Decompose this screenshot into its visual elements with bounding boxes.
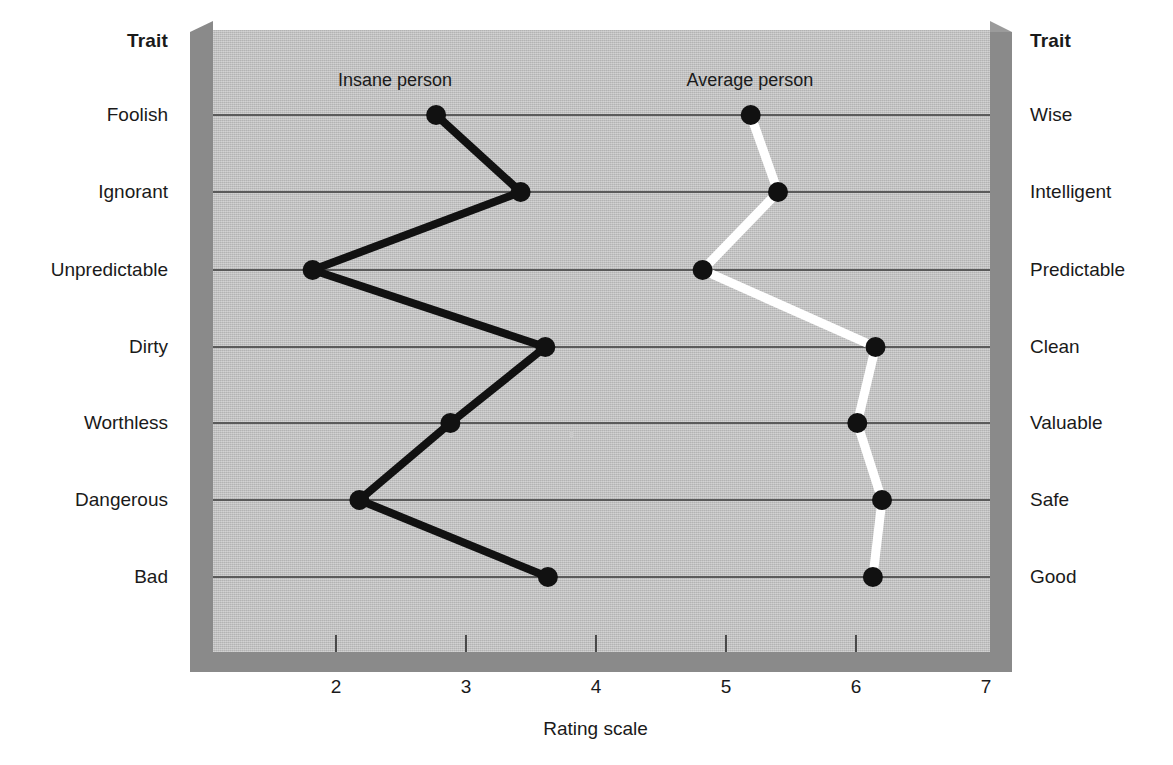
trait-label-right-valuable: Valuable — [1030, 412, 1103, 434]
plot-area — [213, 30, 990, 652]
trait-label-right-predictable: Predictable — [1030, 259, 1125, 281]
xtick-label-5: 5 — [721, 676, 732, 698]
data-point-average-person-3 — [866, 337, 886, 357]
data-point-insane-person-5 — [349, 490, 369, 510]
series-line-average-person — [703, 115, 882, 577]
trait-header-left: Trait — [127, 30, 168, 52]
data-point-average-person-5 — [872, 490, 892, 510]
series-label-insane-person: Insane person — [338, 70, 452, 91]
trait-label-left-foolish: Foolish — [107, 104, 168, 126]
xtick-label-6: 6 — [851, 676, 862, 698]
trait-label-right-safe: Safe — [1030, 489, 1069, 511]
plot-frame-right-edge — [990, 32, 1012, 672]
data-point-insane-person-2 — [303, 260, 323, 280]
data-point-insane-person-1 — [511, 182, 531, 202]
trait-label-left-unpredictable: Unpredictable — [51, 259, 168, 281]
trait-label-right-wise: Wise — [1030, 104, 1072, 126]
trait-label-left-worthless: Worthless — [84, 412, 168, 434]
trait-label-left-bad: Bad — [134, 566, 168, 588]
xtick-label-4: 4 — [591, 676, 602, 698]
plot-frame-left-edge — [190, 32, 213, 672]
data-point-average-person-1 — [768, 182, 788, 202]
series-layer — [213, 30, 990, 652]
x-axis-title-text: Rating scale — [543, 718, 648, 740]
data-point-insane-person-6 — [538, 567, 558, 587]
x-axis-title: Rating scale — [0, 718, 1173, 740]
data-point-average-person-6 — [863, 567, 883, 587]
xtick-label-2: 2 — [331, 676, 342, 698]
series-line-insane-person — [313, 115, 548, 577]
xtick-label-7: 7 — [981, 676, 992, 698]
data-point-insane-person-0 — [426, 105, 446, 125]
trait-label-right-good: Good — [1030, 566, 1076, 588]
xtick-label-3: 3 — [461, 676, 472, 698]
semantic-differential-chart: Trait Trait FoolishWiseIgnorantIntellige… — [0, 0, 1173, 765]
trait-header-right: Trait — [1030, 30, 1071, 52]
trait-label-right-clean: Clean — [1030, 336, 1080, 358]
plot-frame-bottom-edge — [190, 652, 1012, 672]
trait-label-left-dirty: Dirty — [129, 336, 168, 358]
data-point-average-person-2 — [693, 260, 713, 280]
data-point-insane-person-4 — [440, 413, 460, 433]
trait-label-right-intelligent: Intelligent — [1030, 181, 1111, 203]
data-point-insane-person-3 — [535, 337, 555, 357]
data-point-average-person-0 — [741, 105, 761, 125]
trait-label-left-ignorant: Ignorant — [98, 181, 168, 203]
data-point-average-person-4 — [847, 413, 867, 433]
trait-label-left-dangerous: Dangerous — [75, 489, 168, 511]
series-label-average-person: Average person — [687, 70, 814, 91]
